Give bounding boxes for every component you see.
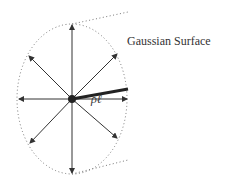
gaussian-surface-diagram (0, 0, 228, 185)
charge-point (68, 95, 76, 103)
gaussian-surface-label: Gaussian Surface (127, 34, 211, 49)
linear-charge-density-label: ρℓ (91, 92, 102, 107)
